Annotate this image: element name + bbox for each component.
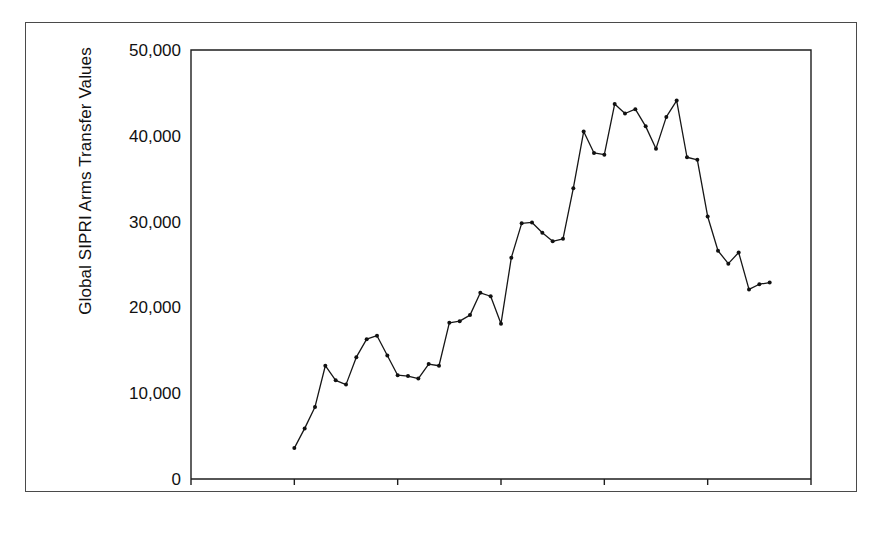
data-point-marker: [571, 186, 575, 190]
data-point-marker: [530, 220, 534, 224]
data-point-marker: [592, 151, 596, 155]
data-point-marker: [396, 373, 400, 377]
x-tick-label: 1950: [275, 490, 313, 493]
data-point-marker: [447, 321, 451, 325]
data-point-marker: [437, 364, 441, 368]
data-point-marker: [561, 237, 565, 241]
data-point-marker: [509, 256, 513, 260]
data-point-marker: [334, 378, 338, 382]
data-point-marker: [623, 111, 627, 115]
x-tick-labels: 1940195019601970198019902000: [172, 490, 830, 493]
line-chart-plot: 010,00020,00030,00040,00050,000 19401950…: [26, 23, 858, 493]
plot-border: [191, 50, 811, 479]
figure-frame: Global SIPRI Arms Transfer Values 010,00…: [25, 22, 857, 492]
x-tick-label: 1940: [172, 490, 210, 493]
data-point-marker: [458, 319, 462, 323]
x-tick-label: 1970: [482, 490, 520, 493]
data-point-marker: [478, 291, 482, 295]
data-point-marker: [489, 294, 493, 298]
data-point-marker: [313, 405, 317, 409]
data-point-marker: [323, 364, 327, 368]
y-tick-label: 10,000: [129, 384, 181, 403]
y-tick-label: 40,000: [129, 127, 181, 146]
data-point-marker: [726, 262, 730, 266]
data-point-marker: [385, 353, 389, 357]
y-tick-label: 30,000: [129, 213, 181, 232]
data-point-marker: [416, 377, 420, 381]
x-tick-label: 1960: [379, 490, 417, 493]
data-point-marker: [551, 239, 555, 243]
axes-group: [191, 50, 811, 479]
x-tick-label: 2000: [792, 490, 830, 493]
data-point-marker: [747, 287, 751, 291]
y-tick-label: 50,000: [129, 41, 181, 60]
data-point-marker: [633, 107, 637, 111]
data-point-marker: [468, 313, 472, 317]
data-point-marker: [716, 249, 720, 253]
data-point-marker: [675, 99, 679, 103]
data-point-marker: [695, 158, 699, 162]
x-tick-label: 1980: [585, 490, 623, 493]
data-point-marker: [768, 281, 772, 285]
data-point-marker: [737, 250, 741, 254]
data-point-marker: [654, 147, 658, 151]
scan-artifact-text: [140, 519, 740, 535]
data-point-marker: [613, 102, 617, 106]
x-tick-label: 1990: [689, 490, 727, 493]
data-point-marker: [644, 124, 648, 128]
figure-root: Global SIPRI Arms Transfer Values 010,00…: [0, 0, 882, 542]
data-point-marker: [706, 214, 710, 218]
data-point-marker: [540, 231, 544, 235]
data-point-marker: [303, 426, 307, 430]
data-point-marker: [664, 115, 668, 119]
data-point-marker: [582, 130, 586, 134]
data-point-marker: [292, 446, 296, 450]
data-point-marker: [757, 282, 761, 286]
data-point-marker: [344, 383, 348, 387]
data-point-marker: [602, 153, 606, 157]
data-point-marker: [406, 374, 410, 378]
y-tick-labels: 010,00020,00030,00040,00050,000: [129, 41, 181, 489]
y-tick-label: 0: [172, 470, 181, 489]
data-series-group: [292, 99, 771, 450]
data-point-marker: [375, 334, 379, 338]
data-point-marker: [520, 221, 524, 225]
data-point-marker: [499, 322, 503, 326]
y-tick-label: 20,000: [129, 298, 181, 317]
data-point-marker: [354, 355, 358, 359]
ticks-group: [191, 479, 811, 485]
series-line: [294, 101, 769, 448]
data-point-marker: [365, 337, 369, 341]
data-point-marker: [685, 155, 689, 159]
data-point-marker: [427, 362, 431, 366]
